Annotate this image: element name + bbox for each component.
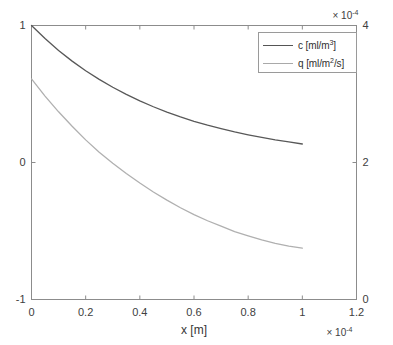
- legend-label-c: c [ml/m3]: [298, 39, 336, 51]
- legend-label-q-suffix: /s]: [334, 58, 344, 69]
- right-tick-label-4: 4: [363, 19, 369, 31]
- x-tick-label-0p4: 0.4: [120, 306, 160, 318]
- x-tick-label-0: 0: [12, 306, 52, 318]
- bottom-exp-base: × 10: [327, 327, 347, 338]
- legend-swatch-q: [263, 63, 293, 64]
- x-tick-label-0p6: 0.6: [174, 306, 214, 318]
- right-axis-exponent-label: × 10-4: [333, 9, 359, 21]
- right-exp-base: × 10: [333, 10, 353, 21]
- legend-label-c-suffix: ]: [333, 40, 336, 51]
- series-line-q: [32, 79, 303, 248]
- x-axis-label: x [m]: [134, 323, 254, 337]
- right-exp-sup: -4: [352, 9, 358, 16]
- right-tick-label-0: 0: [363, 293, 369, 305]
- x-tick-label-1: 1: [282, 306, 322, 318]
- x-tick-label-0p8: 0.8: [228, 306, 268, 318]
- legend-swatch-c: [263, 45, 293, 46]
- legend-entry-c[interactable]: c [ml/m3]: [263, 36, 352, 54]
- bottom-exp-sup: -4: [346, 326, 352, 333]
- legend-label-c-prefix: c [ml/m: [298, 40, 330, 51]
- legend-label-q: q [ml/m2/s]: [298, 57, 344, 69]
- left-tick-label-minus1: -1: [0, 293, 26, 305]
- right-tick-label-2: 2: [363, 156, 369, 168]
- x-axis-exponent-label: × 10-4: [327, 326, 353, 338]
- x-tick-label-0p2: 0.2: [66, 306, 106, 318]
- legend-box[interactable]: c [ml/m3] q [ml/m2/s]: [258, 32, 357, 73]
- legend-entry-q[interactable]: q [ml/m2/s]: [263, 54, 352, 72]
- figure-canvas: 1 0 -1 4 2 0 × 10-4 0 0.2 0.4 0.6 0.8 1 …: [0, 0, 393, 345]
- left-tick-label-1: 1: [0, 19, 26, 31]
- legend-label-q-prefix: q [ml/m: [298, 58, 330, 69]
- x-tick-label-1p2: 1.2: [337, 306, 377, 318]
- left-tick-label-0: 0: [0, 156, 26, 168]
